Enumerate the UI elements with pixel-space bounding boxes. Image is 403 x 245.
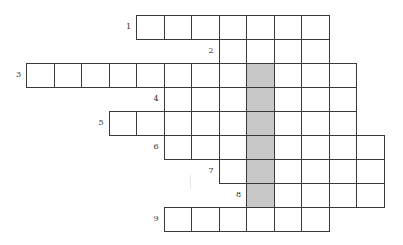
crossword-cell[interactable] — [274, 135, 303, 160]
clue-number: 9 — [145, 215, 159, 223]
crossword-cell[interactable] — [301, 111, 330, 136]
crossword-cell[interactable] — [356, 135, 385, 160]
clue-number: 4 — [145, 95, 159, 103]
clue-number: 7 — [200, 167, 214, 175]
crossword-cell[interactable] — [164, 63, 193, 88]
crossword-cell[interactable] — [329, 111, 358, 136]
crossword-cell[interactable] — [191, 63, 220, 88]
crossword-cell[interactable] — [301, 87, 330, 112]
clue-number: 2 — [200, 47, 214, 55]
crossword-cell[interactable] — [191, 135, 220, 160]
crossword-cell[interactable] — [301, 207, 330, 232]
crossword-cell[interactable] — [219, 63, 248, 88]
crossword-cell[interactable] — [274, 159, 303, 184]
crossword-cell[interactable] — [219, 15, 248, 40]
clue-number: 5 — [90, 119, 104, 127]
crossword-cell[interactable] — [301, 135, 330, 160]
crossword-cell[interactable] — [329, 135, 358, 160]
crossword-cell[interactable] — [274, 207, 303, 232]
crossword-cell[interactable] — [246, 63, 275, 88]
clue-number: 6 — [145, 143, 159, 151]
crossword-cell[interactable] — [136, 111, 165, 136]
crossword-cell[interactable] — [164, 135, 193, 160]
crossword-cell[interactable] — [219, 39, 248, 64]
crossword-cell[interactable] — [164, 87, 193, 112]
crossword-cell[interactable] — [109, 111, 138, 136]
crossword-cell[interactable] — [274, 87, 303, 112]
crossword-cell[interactable] — [274, 63, 303, 88]
crossword-cell[interactable] — [246, 39, 275, 64]
crossword-cell[interactable] — [301, 63, 330, 88]
crossword-cell[interactable] — [26, 63, 55, 88]
crossword-cell[interactable] — [246, 183, 275, 208]
crossword-cell[interactable] — [81, 63, 110, 88]
crossword-cell[interactable] — [191, 15, 220, 40]
scan-artifact — [190, 175, 191, 189]
crossword-grid: 123456789 — [0, 0, 403, 245]
crossword-cell[interactable] — [356, 183, 385, 208]
crossword-cell[interactable] — [329, 159, 358, 184]
crossword-cell[interactable] — [246, 87, 275, 112]
crossword-cell[interactable] — [164, 111, 193, 136]
clue-number: 1 — [117, 23, 131, 31]
crossword-cell[interactable] — [136, 15, 165, 40]
crossword-cell[interactable] — [301, 183, 330, 208]
crossword-cell[interactable] — [246, 159, 275, 184]
crossword-cell[interactable] — [164, 15, 193, 40]
crossword-cell[interactable] — [191, 207, 220, 232]
crossword-cell[interactable] — [191, 111, 220, 136]
crossword-cell[interactable] — [219, 207, 248, 232]
crossword-cell[interactable] — [274, 39, 303, 64]
crossword-cell[interactable] — [164, 207, 193, 232]
crossword-cell[interactable] — [219, 87, 248, 112]
crossword-cell[interactable] — [301, 39, 330, 64]
clue-number: 8 — [227, 191, 241, 199]
crossword-cell[interactable] — [219, 111, 248, 136]
crossword-cell[interactable] — [219, 135, 248, 160]
clue-number: 3 — [7, 71, 21, 79]
crossword-cell[interactable] — [329, 183, 358, 208]
crossword-cell[interactable] — [274, 15, 303, 40]
crossword-cell[interactable] — [246, 111, 275, 136]
crossword-cell[interactable] — [301, 159, 330, 184]
crossword-cell[interactable] — [329, 63, 358, 88]
crossword-cell[interactable] — [246, 207, 275, 232]
crossword-cell[interactable] — [274, 111, 303, 136]
crossword-cell[interactable] — [219, 159, 248, 184]
crossword-cell[interactable] — [136, 63, 165, 88]
crossword-cell[interactable] — [109, 63, 138, 88]
crossword-cell[interactable] — [54, 63, 83, 88]
crossword-cell[interactable] — [246, 135, 275, 160]
crossword-cell[interactable] — [301, 15, 330, 40]
crossword-cell[interactable] — [356, 159, 385, 184]
crossword-cell[interactable] — [329, 87, 358, 112]
crossword-cell[interactable] — [191, 87, 220, 112]
crossword-cell[interactable] — [246, 15, 275, 40]
crossword-cell[interactable] — [274, 183, 303, 208]
